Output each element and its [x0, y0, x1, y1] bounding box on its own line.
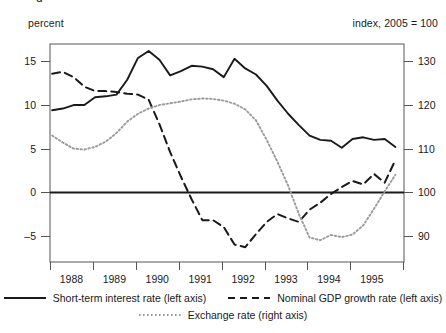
x-tick-label: 1992: [221, 273, 265, 285]
legend-short-term-interest-rate[interactable]: Short-term interest rate (left axis): [4, 292, 206, 304]
y-tick-label-right: 110: [418, 143, 446, 155]
legend-row-primary: Short-term interest rate (left axis)Nomi…: [0, 292, 446, 304]
legend-line-swatch: [4, 293, 46, 303]
x-tick-label: 1988: [49, 273, 93, 285]
y-tick-label-right: 130: [418, 55, 446, 67]
y-tick-label-left: 10: [10, 99, 36, 111]
legend-swatch-dashed: [228, 293, 270, 303]
x-tick-label: 1989: [92, 273, 136, 285]
series-line-1: [52, 51, 395, 148]
y-tick-label-left: –5: [10, 230, 36, 242]
legend-label: Exchange rate (right axis): [188, 309, 308, 321]
legend-swatch-dotted: [139, 310, 181, 320]
legend-row-secondary: Exchange rate (right axis): [0, 309, 446, 321]
x-tick-label: 1991: [178, 273, 222, 285]
series-line-3: [52, 99, 395, 241]
plot-border: [50, 44, 404, 262]
series-line-2: [52, 72, 395, 247]
legend-label: Nominal GDP growth rate (left axis): [277, 292, 442, 304]
x-tick-label: 1995: [350, 273, 394, 285]
legend-exchange-rate[interactable]: Exchange rate (right axis): [139, 309, 308, 321]
y-tick-label-right: 90: [418, 230, 446, 242]
y-tick-label-left: 15: [10, 55, 36, 67]
y-tick-label-right: 120: [418, 99, 446, 111]
x-tick-label: 1993: [264, 273, 308, 285]
legend-nominal-gdp-growth-rate[interactable]: Nominal GDP growth rate (left axis): [228, 292, 442, 304]
y-tick-label-left: 0: [10, 186, 36, 198]
chart-container: g percent index, 2005 = 100 Short-term i…: [0, 0, 446, 333]
legend-line-swatch: [228, 293, 270, 303]
legend-label: Short-term interest rate (left axis): [53, 292, 206, 304]
x-tick-label: 1990: [135, 273, 179, 285]
legend-swatch-solid: [4, 293, 46, 303]
legend-line-swatch: [139, 310, 181, 320]
y-tick-label-left: 5: [10, 143, 36, 155]
y-tick-label-right: 100: [418, 186, 446, 198]
x-tick-label: 1994: [307, 273, 351, 285]
